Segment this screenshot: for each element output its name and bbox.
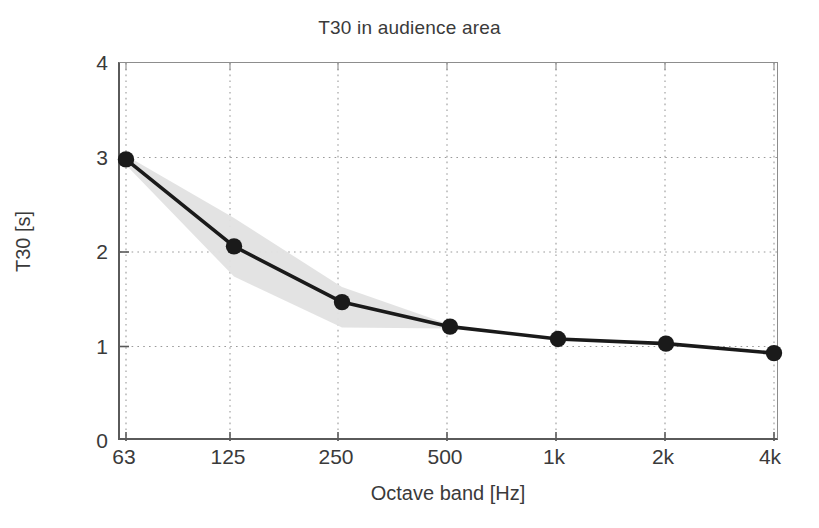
data-point-2k: [658, 335, 674, 351]
data-point-63: [118, 151, 134, 167]
uncertainty-band: [126, 156, 450, 329]
data-point-250: [334, 294, 350, 310]
x-tick-label-125: 125: [210, 446, 245, 467]
data-point-500: [442, 318, 458, 334]
plot-area: [118, 62, 778, 440]
x-tick-label-1k: 1k: [543, 446, 565, 467]
data-point-1k: [550, 331, 566, 347]
y-tick-label-2: 2: [72, 241, 108, 262]
plot-canvas: [120, 63, 780, 441]
x-tick-label-63: 63: [112, 446, 135, 467]
data-point-4k: [766, 345, 782, 361]
chart-figure: T30 in audience area 0 1 2 3 4: [0, 0, 819, 528]
x-tick-label-4k: 4k: [759, 446, 781, 467]
y-tick-label-0: 0: [72, 430, 108, 451]
x-tick-label-250: 250: [318, 446, 353, 467]
x-tick-label-500: 500: [427, 446, 462, 467]
y-tick-label-4: 4: [72, 52, 108, 73]
y-tick-label-1: 1: [72, 335, 108, 356]
x-axis-tick-labels: 63 125 250 500 1k 2k 4k: [118, 446, 778, 476]
x-axis-title: Octave band [Hz]: [118, 482, 778, 505]
x-tick-label-2k: 2k: [652, 446, 674, 467]
chart-title: T30 in audience area: [0, 17, 819, 39]
y-axis-tick-labels: 0 1 2 3 4: [62, 62, 108, 440]
y-tick-label-3: 3: [72, 146, 108, 167]
y-axis-title: T30 [s]: [12, 172, 35, 312]
data-point-125: [226, 238, 242, 254]
